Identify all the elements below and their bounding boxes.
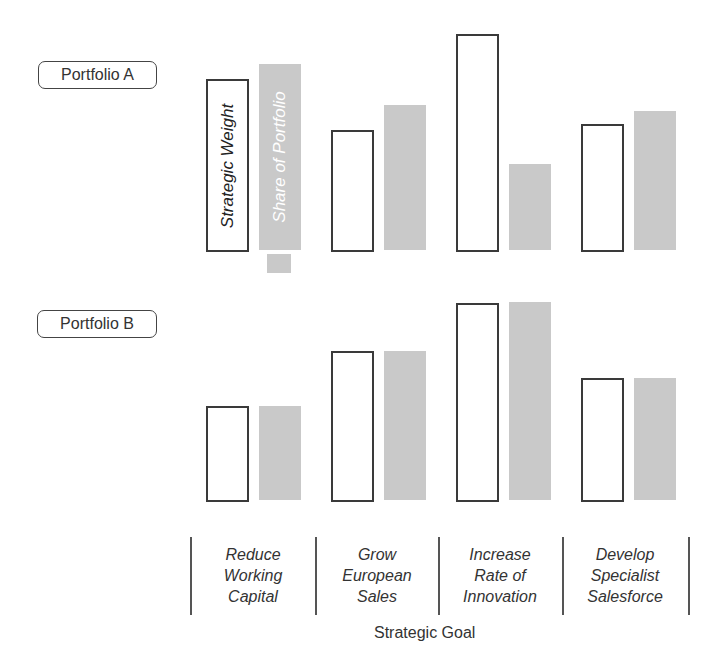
portfolio-b-label: Portfolio B <box>37 310 157 338</box>
legend-share-swatch <box>267 254 291 273</box>
category-label-line: Innovation <box>440 586 560 607</box>
bar-strategic-weight <box>456 34 499 252</box>
legend-share-of-portfolio-label: Share of Portfolio <box>270 91 290 222</box>
category-label-line: Grow <box>317 544 437 565</box>
bar-strategic-weight <box>331 351 374 502</box>
category-label-line: Capital <box>193 586 313 607</box>
bar-share-of-portfolio <box>509 164 551 250</box>
legend-strategic-weight-label: Strategic Weight <box>218 103 238 227</box>
bar-share-of-portfolio <box>384 105 426 250</box>
x-axis-title: Strategic Goal <box>374 624 475 642</box>
bar-share-of-portfolio <box>259 406 301 500</box>
bar-strategic-weight <box>581 124 624 252</box>
category-label-line: Increase <box>440 544 560 565</box>
bar-strategic-weight <box>331 130 374 252</box>
category-label-line: Rate of <box>440 565 560 586</box>
category-divider <box>688 537 690 615</box>
bar-share-of-portfolio <box>509 302 551 500</box>
category-divider <box>562 537 564 615</box>
category-label-line: Reduce <box>193 544 313 565</box>
category-label-grow-european-sales: Grow European Sales <box>317 544 437 607</box>
bar-share-of-portfolio <box>384 351 426 500</box>
category-label-line: Salesforce <box>565 586 685 607</box>
category-label-line: Sales <box>317 586 437 607</box>
category-label-reduce-working-capital: Reduce Working Capital <box>193 544 313 607</box>
category-label-line: Working <box>193 565 313 586</box>
bar-share-of-portfolio <box>634 378 676 500</box>
bar-strategic-weight: Strategic Weight <box>206 79 249 252</box>
bar-strategic-weight <box>581 378 624 502</box>
category-label-line: Specialist <box>565 565 685 586</box>
bar-share-of-portfolio <box>634 111 676 250</box>
category-divider <box>190 537 192 615</box>
category-label-increase-rate-of-innovation: Increase Rate of Innovation <box>440 544 560 607</box>
bar-strategic-weight <box>456 303 499 502</box>
category-label-line: European <box>317 565 437 586</box>
bar-strategic-weight <box>206 406 249 502</box>
category-label-line: Develop <box>565 544 685 565</box>
category-label-develop-specialist-salesforce: Develop Specialist Salesforce <box>565 544 685 607</box>
bar-share-of-portfolio: Share of Portfolio <box>259 64 301 250</box>
portfolio-a-label: Portfolio A <box>38 61 157 89</box>
